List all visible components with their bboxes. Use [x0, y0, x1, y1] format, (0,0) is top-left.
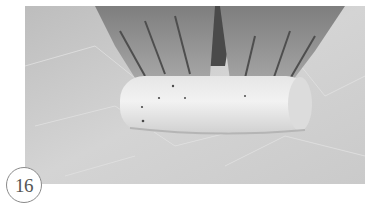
- rolling-dough-image: [25, 6, 365, 184]
- step-number: 16: [15, 176, 33, 195]
- step-photo: [25, 6, 365, 184]
- step-number-badge: 16: [6, 167, 42, 203]
